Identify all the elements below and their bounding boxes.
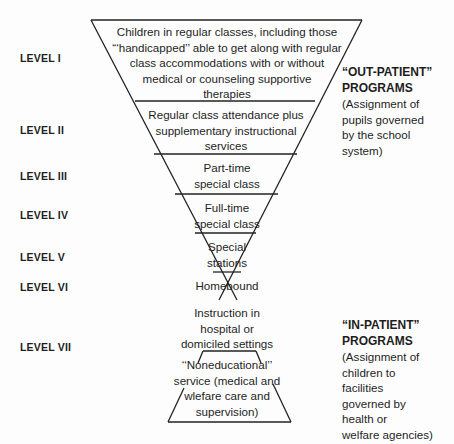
outpatient-programs-note: “OUT-PATIENT” PROGRAMS (Assignment of pu… (342, 65, 432, 158)
tier-3-part-time: Part-time special class (170, 160, 284, 191)
tier-7-hospital-instruction: Instruction in hospital or domiciled set… (170, 305, 284, 352)
tier-4-full-time: Full-time special class (170, 200, 284, 231)
level-label-3: LEVEL III (20, 170, 67, 182)
level-label-1: LEVEL I (20, 52, 61, 64)
tier-5-special-stations: Special stations (190, 239, 264, 270)
level-label-7: LEVEL VII (20, 341, 71, 353)
level-label-5: LEVEL V (20, 251, 65, 263)
tier-6-homebound: Homebound (180, 278, 274, 294)
level-label-6: LEVEL VI (20, 281, 68, 293)
level-label-4: LEVEL IV (20, 209, 68, 221)
level-label-2: LEVEL II (20, 124, 64, 136)
outpatient-heading: “OUT-PATIENT” (342, 65, 432, 81)
tier-2-supplementary: Regular class attendance plus supplement… (140, 107, 312, 154)
inpatient-heading: “IN-PATIENT” (342, 318, 433, 334)
tier-8-noneducational: ‘‘Noneducational’’ service (medical and … (165, 357, 289, 419)
inpatient-programs-note: “IN-PATIENT” PROGRAMS (Assignment of chi… (342, 318, 433, 442)
tier-1-regular-classes: Children in regular classes, including t… (100, 24, 354, 102)
